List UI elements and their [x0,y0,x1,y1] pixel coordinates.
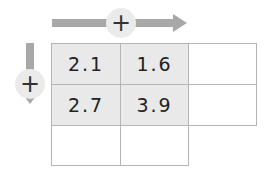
plus-icon-horizontal: + [106,8,136,38]
cell-r1-c2: 1.6 [120,43,189,85]
cell-r3-c2 [120,125,189,166]
cell-r1-c1: 2.1 [51,43,121,85]
cell-r1-c3 [188,43,257,85]
cell-r3-c1 [51,125,121,166]
cell-r2-c1: 2.7 [51,84,121,126]
cell-r2-c2: 3.9 [120,84,189,126]
plus-icon-vertical: + [15,69,45,99]
cell-r2-c3 [188,84,257,126]
right-arrowhead-icon [173,14,187,32]
